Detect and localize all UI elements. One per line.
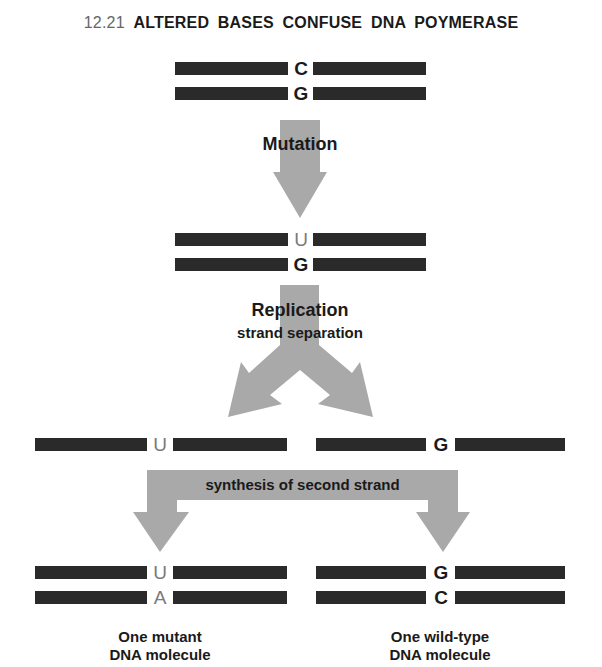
replication-label: Replication [200,300,400,321]
strand-separation-label: strand separation [200,324,400,341]
strand-segment [316,591,426,604]
base-bottom-altered: A [148,588,172,607]
synthesis-label: synthesis of second strand [147,476,458,493]
strand-segment [175,233,288,246]
caption-wild-type-line2: DNA molecule [360,646,520,664]
strand-segment [173,438,287,451]
strand-segment [35,591,147,604]
base-bottom: C [429,588,453,607]
caption-wild-type-line1: One wild-type [360,628,520,646]
mutation-label: Mutation [200,134,400,155]
strand-segment [175,87,288,100]
strand-segment [35,566,147,579]
strand-segment [455,566,565,579]
base-top-altered: U [289,230,313,249]
strand-segment [455,438,565,451]
base-bottom: G [289,255,313,274]
strand-segment [313,233,426,246]
strand-segment [313,62,426,75]
strand-segment [173,591,287,604]
strand-segment [175,62,288,75]
strand-segment [316,566,426,579]
base-top: G [429,563,453,582]
strand-segment [313,258,426,271]
base-bottom: G [289,84,313,103]
caption-mutant-line1: One mutant [80,628,240,646]
strand-segment [35,438,147,451]
strand-segment [455,591,565,604]
strand-segment [313,87,426,100]
strand-segment [316,438,426,451]
base-altered: U [148,435,172,454]
caption-mutant-line2: DNA molecule [80,646,240,664]
strand-segment [173,566,287,579]
strand-segment [175,258,288,271]
caption-wild-type: One wild-type DNA molecule [360,628,520,664]
caption-mutant: One mutant DNA molecule [80,628,240,664]
base-top-altered: U [148,563,172,582]
base: G [429,435,453,454]
base-top: C [289,59,313,78]
